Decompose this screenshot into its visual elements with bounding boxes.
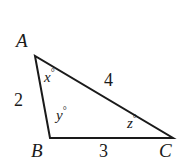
- vertex-label-a: A: [16, 31, 28, 50]
- angle-label-z: z°: [127, 116, 137, 131]
- angle-variable-x: x: [44, 69, 51, 85]
- angle-label-y: y°: [56, 108, 67, 123]
- vertex-label-b: B: [31, 141, 43, 160]
- angle-label-x: x°: [44, 70, 55, 85]
- degree-symbol-y: °: [63, 105, 67, 116]
- degree-symbol-x: °: [51, 67, 55, 78]
- side-length-label-ab: 2: [14, 91, 23, 109]
- triangle-shape: [35, 56, 173, 138]
- triangle-figure: A B C 2 4 3 x° y° z°: [0, 0, 190, 167]
- degree-symbol-z: °: [133, 113, 137, 124]
- angle-variable-y: y: [56, 107, 63, 123]
- side-length-label-ac: 4: [104, 71, 113, 89]
- side-length-label-bc: 3: [99, 142, 108, 160]
- vertex-label-c: C: [159, 141, 172, 160]
